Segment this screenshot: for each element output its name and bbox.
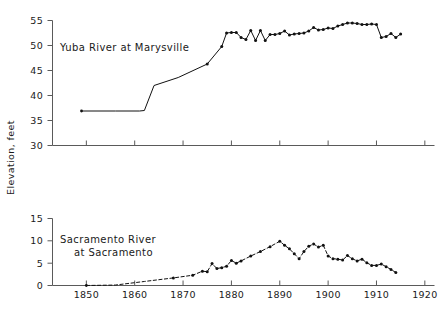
data-point bbox=[356, 259, 359, 262]
data-point bbox=[269, 245, 272, 248]
data-point bbox=[278, 32, 281, 35]
data-point bbox=[365, 23, 368, 26]
data-point bbox=[235, 262, 238, 265]
data-point bbox=[206, 270, 209, 273]
x-tick-label-1860: 1860 bbox=[122, 289, 147, 300]
data-point bbox=[312, 242, 315, 245]
lower-x-tick-labels: 18501860187018801890190019101920 bbox=[74, 289, 438, 300]
lower-y-tick-label-5: 5 bbox=[37, 258, 43, 269]
x-tick-label-1870: 1870 bbox=[170, 289, 195, 300]
data-point bbox=[394, 36, 397, 39]
data-point bbox=[341, 23, 344, 26]
data-point bbox=[235, 31, 238, 34]
data-point bbox=[385, 265, 388, 268]
data-point bbox=[191, 274, 194, 277]
data-point bbox=[360, 23, 363, 26]
data-point bbox=[346, 22, 349, 25]
data-point bbox=[360, 258, 363, 261]
data-point bbox=[225, 265, 228, 268]
data-point bbox=[283, 244, 286, 247]
upper-y-tick-label-35: 35 bbox=[30, 115, 43, 126]
lower-y-ticks bbox=[48, 219, 53, 286]
data-point bbox=[331, 27, 334, 30]
upper-y-tick-label-45: 45 bbox=[30, 65, 43, 76]
data-point bbox=[240, 259, 243, 262]
data-point bbox=[341, 259, 344, 262]
upper-x-ticks bbox=[86, 141, 424, 146]
data-point bbox=[259, 250, 262, 253]
data-point bbox=[370, 23, 373, 26]
upper-y-tick-label-50: 50 bbox=[30, 40, 43, 51]
data-point bbox=[249, 255, 252, 258]
data-point bbox=[365, 261, 368, 264]
x-tick-label-1880: 1880 bbox=[219, 289, 244, 300]
data-point bbox=[351, 257, 354, 260]
data-point bbox=[322, 28, 325, 31]
data-point bbox=[288, 34, 291, 37]
data-point bbox=[375, 264, 378, 267]
x-tick-label-1900: 1900 bbox=[315, 289, 340, 300]
data-point bbox=[312, 26, 315, 29]
data-point bbox=[225, 32, 228, 35]
data-point bbox=[380, 263, 383, 266]
data-point bbox=[230, 31, 233, 34]
data-point bbox=[293, 33, 296, 36]
data-point bbox=[220, 45, 223, 48]
data-point bbox=[244, 38, 247, 41]
data-point bbox=[240, 36, 243, 39]
data-point bbox=[385, 35, 388, 38]
upper-data-markers bbox=[80, 22, 402, 113]
upper-y-ticks bbox=[48, 21, 53, 146]
data-point bbox=[327, 255, 330, 258]
data-point bbox=[307, 30, 310, 33]
data-point bbox=[172, 276, 175, 279]
upper-y-tick-label-55: 55 bbox=[30, 15, 43, 26]
data-point bbox=[298, 32, 301, 35]
data-point bbox=[351, 22, 354, 25]
data-point bbox=[85, 284, 88, 287]
lower-y-tick-label-10: 10 bbox=[30, 235, 43, 246]
data-point bbox=[278, 240, 281, 243]
data-point bbox=[317, 29, 320, 32]
data-point bbox=[370, 264, 373, 267]
y-axis-title: Elevation, feet bbox=[5, 120, 16, 195]
data-point bbox=[206, 63, 209, 66]
lower-y-tick-label-15: 15 bbox=[30, 213, 43, 224]
data-point bbox=[273, 33, 276, 36]
data-point bbox=[302, 250, 305, 253]
upper-chart: 30 35 40 45 50 55 Yuba River at Marysvil… bbox=[30, 15, 434, 151]
x-tick-label-1850: 1850 bbox=[74, 289, 99, 300]
lower-chart-title-line1: Sacramento River bbox=[60, 234, 156, 245]
data-point bbox=[307, 245, 310, 248]
data-point bbox=[259, 29, 262, 32]
data-point bbox=[254, 39, 257, 42]
x-tick-label-1920: 1920 bbox=[412, 289, 437, 300]
data-point bbox=[211, 262, 214, 265]
data-point bbox=[215, 267, 218, 270]
data-point bbox=[331, 257, 334, 260]
data-point bbox=[283, 30, 286, 33]
data-point bbox=[346, 254, 349, 257]
data-point bbox=[356, 22, 359, 25]
data-point bbox=[80, 110, 83, 113]
data-point bbox=[389, 268, 392, 271]
x-tick-label-1890: 1890 bbox=[267, 289, 292, 300]
x-tick-label-1910: 1910 bbox=[364, 289, 389, 300]
chart-figure: 30 35 40 45 50 55 Yuba River at Marysvil… bbox=[0, 0, 440, 317]
data-point bbox=[322, 244, 325, 247]
data-point bbox=[293, 252, 296, 255]
data-point bbox=[399, 33, 402, 36]
lower-chart-title-line2: at Sacramento bbox=[74, 247, 153, 258]
data-point bbox=[375, 23, 378, 26]
data-point bbox=[336, 25, 339, 28]
data-point bbox=[336, 258, 339, 261]
data-point bbox=[302, 32, 305, 35]
data-point bbox=[327, 27, 330, 30]
lower-x-ticks bbox=[86, 281, 424, 286]
data-point bbox=[389, 32, 392, 35]
data-point bbox=[269, 33, 272, 36]
chart-svg: 30 35 40 45 50 55 Yuba River at Marysvil… bbox=[0, 0, 440, 317]
data-point bbox=[201, 270, 204, 273]
upper-chart-title: Yuba River at Marysville bbox=[59, 42, 189, 53]
data-point bbox=[288, 247, 291, 250]
